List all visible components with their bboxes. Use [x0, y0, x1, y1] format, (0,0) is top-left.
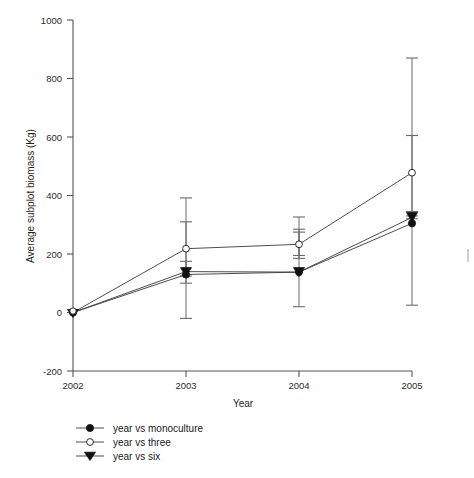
y-tick-label-1000: 1000: [41, 15, 62, 26]
y-tick-label-0: 0: [57, 307, 62, 318]
y-tick-label-800: 800: [46, 73, 62, 84]
legend-marker-filled-circle-icon: [86, 424, 93, 431]
scan-artifact-speck: [467, 249, 469, 262]
x-tick-label-2003: 2003: [175, 380, 196, 391]
y-tick-label-400: 400: [46, 190, 62, 201]
legend-label-monoculture: year vs monoculture: [113, 423, 203, 434]
marker-three-2002: [70, 308, 76, 314]
x-axis-title: Year: [233, 398, 254, 409]
legend-entry-three[interactable]: year vs three: [76, 437, 171, 448]
y-tick-label-200: 200: [46, 249, 62, 260]
x-tick-label-2002: 2002: [62, 380, 83, 391]
marker-monoculture-2004: [295, 269, 302, 276]
marker-three-2004: [296, 241, 303, 248]
legend-label-three: year vs three: [113, 437, 171, 448]
marker-monoculture-2005: [408, 220, 415, 227]
legend-label-six: year vs six: [113, 451, 160, 462]
chart-figure: 1000 800 600 400 200 0 -200 Average subp…: [0, 0, 474, 478]
marker-monoculture-2003: [182, 271, 189, 278]
y-axis-title: Average subplot biomass (Kg): [25, 129, 36, 263]
x-tick-label-2005: 2005: [401, 380, 422, 391]
x-tick-label-2004: 2004: [288, 380, 309, 391]
y-tick-label-600: 600: [46, 132, 62, 143]
legend-marker-open-circle-icon: [87, 439, 94, 446]
y-tick-label-neg200: -200: [43, 366, 62, 377]
marker-three-2005: [409, 169, 416, 176]
marker-three-2003: [183, 245, 190, 252]
chart-svg: 1000 800 600 400 200 0 -200 Average subp…: [0, 0, 474, 478]
